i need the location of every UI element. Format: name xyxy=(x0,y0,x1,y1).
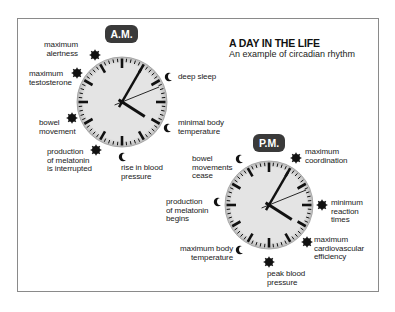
pm-badge: P.M. xyxy=(253,134,285,152)
pm-label-max-cardiovascular-efficiency: maximum cardiovascular efficiency xyxy=(314,236,364,262)
am-clock-face xyxy=(77,57,167,147)
am-label-minimal-body-temperature: minimal body temperature xyxy=(178,119,224,136)
pm-label-maximum-body-temperature: maximum body temperature xyxy=(180,245,233,262)
pm-clock-face xyxy=(225,161,313,249)
pm-label-peak-blood-pressure: peak blood pressure xyxy=(267,270,305,287)
pm-label-minimum-reaction-times: minimum reaction times xyxy=(331,199,363,225)
am-label-melatonin-interrupted: production of melatonin is interrupted xyxy=(47,148,92,174)
pm-label-bowel-movements-cease: bowel movements cease xyxy=(192,155,232,181)
am-label-maximum-testosterone: maximum testosterone xyxy=(29,70,72,87)
am-label-rise-blood-pressure: rise in blood pressure xyxy=(121,164,163,181)
am-label-deep-sleep: deep sleep xyxy=(178,73,216,82)
am-label-bowel-movement: bowel movement xyxy=(39,119,76,136)
pm-label-maximum-coordination: maximum coordination xyxy=(305,148,347,165)
am-label-maximum-alertness: maximum alertness xyxy=(44,41,78,58)
am-badge: A.M. xyxy=(105,25,138,43)
pm-label-melatonin-begins: production of melatonin begins xyxy=(166,198,208,224)
